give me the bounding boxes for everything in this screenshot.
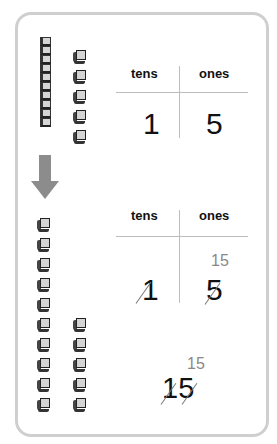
unit-cube-icon — [37, 258, 50, 272]
tens-header: tens — [131, 66, 158, 81]
unit-cube-icon — [37, 218, 50, 232]
final-regrouped-label: 15 — [187, 356, 205, 372]
unit-cube-icon — [73, 398, 86, 412]
bottom-right-cubes — [73, 318, 89, 418]
unit-cube-icon — [73, 378, 86, 392]
arrow-down-icon — [30, 155, 60, 200]
unit-cube-icon — [37, 278, 50, 292]
unit-cube-icon — [73, 110, 86, 124]
unit-cube-icon — [73, 358, 86, 372]
unit-cube-icon — [37, 338, 50, 352]
rod-unit-icon — [40, 82, 51, 91]
rod-unit-icon — [40, 55, 51, 64]
rod-unit-icon — [40, 91, 51, 100]
unit-cube-icon — [73, 338, 86, 352]
unit-cube-icon — [73, 50, 86, 64]
regrouped-ones-label: 15 — [211, 253, 229, 269]
chart-divider-horizontal — [116, 236, 248, 237]
rod-unit-icon — [40, 118, 51, 127]
chart-divider-vertical — [179, 210, 180, 303]
rod-unit-icon — [40, 37, 51, 46]
tens-header: tens — [131, 208, 158, 223]
bottom-left-cubes — [37, 218, 53, 418]
unit-cube-icon — [37, 318, 50, 332]
unit-cube-icon — [73, 318, 86, 332]
unit-cube-icon — [37, 298, 50, 312]
tens-digit: 1 — [143, 109, 160, 139]
rod-unit-icon — [40, 64, 51, 73]
rod-unit-icon — [40, 73, 51, 82]
rod-unit-icon — [40, 46, 51, 55]
unit-cube-icon — [73, 130, 86, 144]
final-number: 15 — [162, 374, 194, 403]
unit-cube-icon — [73, 70, 86, 84]
chart-divider-vertical — [179, 66, 180, 138]
unit-cube-icon — [37, 398, 50, 412]
rod-unit-icon — [40, 100, 51, 109]
unit-cube-icon — [37, 238, 50, 252]
tens-rod — [40, 37, 52, 127]
ones-header: ones — [199, 66, 229, 81]
chart-divider-horizontal — [116, 92, 248, 93]
ones-header: ones — [199, 208, 229, 223]
unit-cube-icon — [37, 358, 50, 372]
unit-cube-icon — [37, 378, 50, 392]
ones-digit: 5 — [206, 109, 223, 139]
top-ones-cubes — [73, 50, 89, 150]
unit-cube-icon — [73, 90, 86, 104]
rod-unit-icon — [40, 109, 51, 118]
